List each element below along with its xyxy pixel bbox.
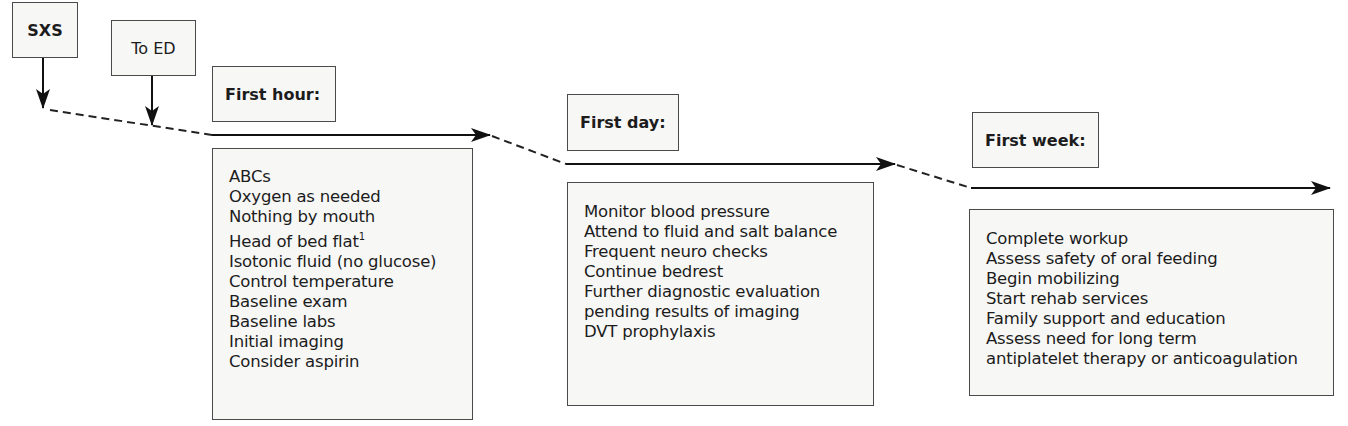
first-day-label-box: First day: [567,94,679,151]
list-item: Attend to fluid and salt balance [584,222,873,242]
list-item: Control temperature [229,272,472,292]
footnote-marker: 1 [359,231,365,242]
to-ed-box: To ED [111,20,196,76]
list-item: Family support and education [986,309,1333,329]
list-item: pending results of imaging [584,302,873,322]
sxs-label: SXS [27,21,62,40]
list-item: Initial imaging [229,332,472,352]
first-hour-box: ABCs Oxygen as needed Nothing by mouth H… [212,148,473,420]
list-item: Assess need for long term [986,329,1333,349]
first-week-box: Complete workup Assess safety of oral fe… [969,209,1334,396]
list-item: Baseline labs [229,312,472,332]
list-item: DVT prophylaxis [584,322,873,342]
to-ed-label: To ED [131,39,175,58]
list-item: ABCs [229,167,472,187]
list-item: Start rehab services [986,289,1333,309]
first-week-label-box: First week: [972,112,1099,168]
first-day-box: Monitor blood pressure Attend to fluid a… [567,182,874,406]
list-item: Complete workup [986,229,1333,249]
list-item: Head of bed flat1 [229,227,472,252]
list-item: Oxygen as needed [229,187,472,207]
list-item: Continue bedrest [584,262,873,282]
first-hour-label-box: First hour: [212,66,336,122]
list-item: Monitor blood pressure [584,202,873,222]
first-hour-title: First hour: [225,85,320,104]
first-day-title: First day: [580,113,666,132]
sxs-box: SXS [12,2,78,58]
list-item: antiplatelet therapy or anticoagulation [986,349,1333,369]
list-item: Frequent neuro checks [584,242,873,262]
first-week-title: First week: [985,131,1086,150]
list-item: Baseline exam [229,292,472,312]
list-item: Begin mobilizing [986,269,1333,289]
list-item: Nothing by mouth [229,207,472,227]
list-item: Assess safety of oral feeding [986,249,1333,269]
list-item: Isotonic fluid (no glucose) [229,252,472,272]
list-item: Consider aspirin [229,352,472,372]
list-item: Further diagnostic evaluation [584,282,873,302]
